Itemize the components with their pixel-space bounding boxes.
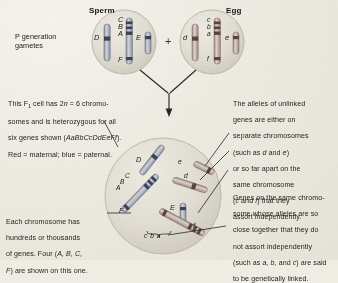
sperm-label-D: D <box>94 33 99 42</box>
sperm-label-F: F <box>118 55 123 64</box>
unlinked-line5: or so far apart on the <box>233 165 300 173</box>
f1-callout-line1c: = 6 chromo- <box>68 100 109 108</box>
each-chromosome-callout: Each chromosome has hundreds or thousand… <box>6 210 114 275</box>
f1-label-d: d <box>184 172 188 179</box>
unlinked-line4c: ) <box>287 149 289 157</box>
f1-label-cba: c b a <box>144 232 161 239</box>
each-chr-line3a: of genes. Four ( <box>6 250 57 258</box>
linked-genes-callout: Genes on the same chromo- some whose all… <box>233 186 337 283</box>
sperm-label-E: E <box>136 33 141 42</box>
f1-callout-line4: Red = maternal; blue = paternal. <box>8 151 112 159</box>
egg-title: Egg <box>226 6 242 15</box>
f1-callout-line3b: ). <box>117 134 121 142</box>
linked-line3: close together that they do <box>233 226 319 234</box>
each-chr-line1: Each chromosome has <box>6 218 80 226</box>
unlinked-line2: genes are either on <box>233 116 295 124</box>
linked-line5a: (such as <box>233 259 262 267</box>
f1-label-A: A <box>116 184 120 191</box>
linked-line5c: ) are said <box>296 259 326 267</box>
linked-line4: not assort independently <box>233 243 312 251</box>
unlinked-line4b: and <box>266 149 282 157</box>
f1-label-C: C <box>125 172 130 179</box>
each-chr-genes: A, B, C, <box>57 250 82 258</box>
p-generation-label: P generation gametes <box>15 33 56 51</box>
egg-chromosome-d <box>192 24 198 61</box>
f1-callout-line3a: six genes shown ( <box>8 134 66 142</box>
sperm-cell <box>92 10 156 74</box>
linked-line6: to be genetically linked. <box>233 275 309 283</box>
egg-cell <box>180 10 244 74</box>
f1-label-E: E <box>170 203 175 212</box>
f1-cell-callout: This F1 cell has 2n = 6 chromo- somes an… <box>8 92 158 159</box>
plus-sign: + <box>165 35 171 47</box>
sperm-chromosome-ABCF <box>126 18 132 64</box>
linked-line1: Genes on the same chromo- <box>233 194 325 202</box>
unlinked-line4a: (such as <box>233 149 262 157</box>
f1-label-e: e <box>178 158 182 165</box>
f1-callout-line1: This F <box>8 100 28 108</box>
f1-label-f: f <box>193 221 195 230</box>
egg-label-c: c <box>207 16 210 23</box>
linked-line2: some whose alleles are so <box>233 210 318 218</box>
each-chr-line2: hundreds or thousands <box>6 234 80 242</box>
sperm-chromosome-D <box>104 24 110 61</box>
f1-callout-line2: somes and is heterozygous for all <box>8 118 116 126</box>
each-chr-line4b: ) are shown on this one. <box>10 267 87 275</box>
f1-callout-genotype: AaBbCcDdEeFf <box>66 134 117 142</box>
egg-chromosome-abcf <box>214 18 220 64</box>
f1-label-B: B <box>120 178 124 185</box>
egg-label-a: a <box>207 30 211 37</box>
linked-line5b: and <box>277 259 293 267</box>
sperm-chromosome-E <box>145 32 151 54</box>
egg-label-b: b <box>207 23 211 30</box>
f1-callout-line1b: cell has 2 <box>31 100 64 108</box>
unlinked-line3: separate chromosomes <box>233 132 309 140</box>
sperm-label-A: A <box>118 29 123 38</box>
unlinked-line1: The alleles of unlinked <box>233 100 305 108</box>
sperm-title: Sperm <box>89 6 115 15</box>
egg-chromosome-e <box>233 32 239 54</box>
linked-alleles-ab: a, b, <box>262 259 276 267</box>
egg-label-e: e <box>225 33 229 42</box>
egg-label-f: f <box>207 55 209 62</box>
egg-label-d: d <box>183 33 187 42</box>
f1-label-F: F <box>119 206 124 215</box>
